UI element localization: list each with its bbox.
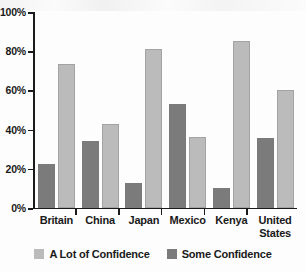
y-tick-mark (28, 90, 33, 92)
bar-a-lot-of-confidence (233, 41, 250, 208)
bar-group-china (78, 12, 122, 208)
bar-group-japan (122, 12, 166, 208)
legend-label-some-confidence: Some Confidence (182, 248, 272, 260)
x-axis-label-britain: Britain (35, 214, 79, 240)
legend-swatch-a-lot-of-confidence (34, 249, 44, 259)
y-tick-label: 20% (6, 163, 26, 175)
bar-group-mexico (166, 12, 210, 208)
bar-some-confidence (125, 183, 142, 208)
chart-legend: A Lot of Confidence Some Confidence (0, 248, 306, 260)
bar-some-confidence (169, 104, 186, 208)
x-axis-labels: Britain China Japan Mexico Kenya United … (35, 214, 298, 240)
legend-item-a-lot-of-confidence: A Lot of Confidence (34, 248, 149, 260)
y-tick-label: 80% (6, 45, 26, 57)
bar-groups (35, 12, 298, 208)
bar-group-kenya (210, 12, 254, 208)
bar-some-confidence (82, 141, 99, 208)
bar-a-lot-of-confidence (277, 90, 294, 208)
bar-a-lot-of-confidence (145, 49, 162, 208)
y-tick-label: 60% (6, 84, 26, 96)
x-axis-label-mexico: Mexico (166, 214, 210, 240)
bar-some-confidence (257, 138, 274, 208)
bar-a-lot-of-confidence (58, 64, 75, 208)
bar-group-united-states (253, 12, 297, 208)
x-axis-label-japan: Japan (122, 214, 166, 240)
legend-swatch-some-confidence (167, 249, 177, 259)
y-tick-mark (28, 169, 33, 171)
bar-group-britain (35, 12, 79, 208)
bar-chart: 100% 80% 60% 40% 20% 0% (0, 0, 306, 272)
y-tick-mark (28, 12, 33, 14)
page-bleed-through-artifact (0, 0, 306, 11)
y-tick-mark (28, 208, 33, 210)
x-axis-label-united-states: United States (253, 214, 297, 240)
bar-a-lot-of-confidence (102, 124, 119, 208)
y-tick-mark (28, 130, 33, 132)
bar-a-lot-of-confidence (189, 137, 206, 208)
x-axis-label-kenya: Kenya (210, 214, 254, 240)
legend-item-some-confidence: Some Confidence (167, 248, 272, 260)
legend-label-a-lot-of-confidence: A Lot of Confidence (49, 248, 149, 260)
bar-some-confidence (38, 164, 55, 208)
x-axis-label-china: China (78, 214, 122, 240)
y-tick-label: 100% (0, 6, 26, 18)
y-tick-mark (28, 51, 33, 53)
plot-area: 100% 80% 60% 40% 20% 0% (33, 12, 297, 208)
y-tick-label: 0% (11, 202, 26, 214)
bar-some-confidence (213, 188, 230, 208)
y-tick-label: 40% (6, 124, 26, 136)
